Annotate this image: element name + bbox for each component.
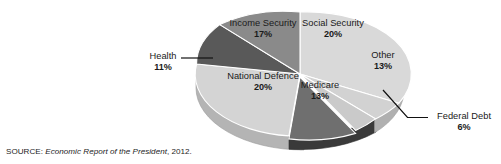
pie-chart-svg	[0, 0, 501, 164]
pie-slice-national-defence[interactable]	[195, 64, 300, 136]
pie-chart-figure: Income Security 17% Social Security 20% …	[0, 0, 501, 164]
source-note: SOURCE: Economic Report of the President…	[6, 147, 192, 156]
source-prefix: SOURCE:	[6, 147, 45, 156]
source-title: Economic Report of the President	[45, 147, 167, 156]
source-year: , 2012.	[167, 147, 192, 156]
